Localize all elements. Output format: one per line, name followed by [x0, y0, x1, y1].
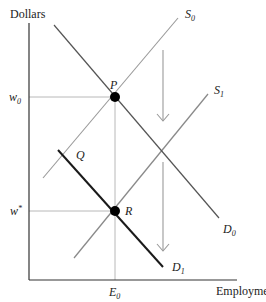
- D0-label: D0: [222, 222, 236, 238]
- down-arrow-icon: [157, 50, 169, 121]
- point-R-label: R: [124, 204, 133, 218]
- x-axis-label: Employment: [216, 284, 266, 298]
- point-R-marker: [110, 206, 120, 216]
- labor-market-diagram: Dollars Employment w0 w* E0 S0 S1 D0 D1 …: [0, 0, 266, 302]
- point-Q-label: Q: [76, 148, 85, 162]
- S1-label: S1: [214, 83, 224, 99]
- E0-label: E0: [108, 285, 120, 301]
- S0-label: S0: [185, 7, 195, 23]
- y-axis-label: Dollars: [10, 7, 46, 21]
- point-P-marker: [110, 92, 120, 102]
- down-arrow-icon: [157, 162, 169, 251]
- D1-label: D1: [171, 260, 185, 276]
- supply-curve-S1: [74, 94, 208, 258]
- w0-label: w0: [9, 90, 21, 106]
- point-P-label: P: [109, 78, 118, 92]
- demand-curve-D0: [54, 25, 219, 218]
- w-star-label: w*: [10, 204, 22, 218]
